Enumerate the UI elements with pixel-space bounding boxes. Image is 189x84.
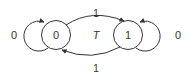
state-0-label: 0 [53, 29, 59, 41]
self-loop-s1-label: 0 [175, 29, 181, 41]
state-diagram: 0 0 0 1 1 1 T [0, 0, 189, 84]
self-loop-s0-label: 0 [11, 29, 17, 41]
transition-s1-s0-label: 1 [93, 63, 99, 74]
diagram-title: T [93, 29, 101, 41]
transition-s1-s0 [62, 47, 120, 55]
transition-s0-s1-label: 1 [93, 8, 99, 19]
state-1-label: 1 [125, 29, 131, 41]
